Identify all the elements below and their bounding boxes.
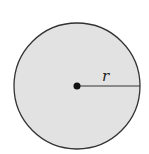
radius-label: r	[102, 67, 110, 85]
circle-diagram: r	[0, 0, 149, 154]
center-point	[74, 83, 81, 90]
